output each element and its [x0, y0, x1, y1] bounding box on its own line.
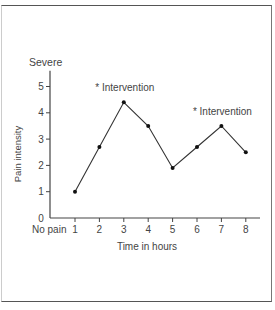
data-point	[195, 145, 199, 149]
axes	[50, 71, 260, 218]
data-point	[244, 150, 248, 154]
x-tick-label: 4	[145, 224, 151, 235]
y-tick-label: 4	[38, 107, 44, 118]
x-origin-label: No pain	[32, 224, 66, 235]
y-tick-label: 2	[38, 160, 44, 171]
intervention-annotation: * Intervention	[193, 106, 252, 117]
x-tick-label: 6	[194, 224, 200, 235]
y-axis-label: Pain intensity	[12, 126, 23, 183]
y-top-label: Severe	[29, 56, 62, 68]
y-tick-label: 5	[38, 81, 44, 92]
intervention-annotation: * Intervention	[95, 82, 154, 93]
data-point	[97, 145, 101, 149]
x-tick-label: 7	[219, 224, 225, 235]
x-tick-label: 5	[170, 224, 176, 235]
y-tick-label: 0	[38, 213, 44, 224]
x-tick-label: 3	[121, 224, 127, 235]
data-point	[171, 166, 175, 170]
x-tick-label: 8	[243, 224, 249, 235]
data-point	[146, 124, 150, 128]
ticks: 01234512345678	[38, 81, 249, 235]
line-chart: 01234512345678 * Intervention* Intervent…	[0, 0, 275, 310]
data-point	[219, 124, 223, 128]
y-tick-label: 3	[38, 134, 44, 145]
y-tick-label: 1	[38, 186, 44, 197]
x-axis-label: Time in hours	[117, 241, 177, 252]
data-point	[73, 190, 77, 194]
data-point	[122, 100, 126, 104]
x-tick-label: 1	[72, 224, 78, 235]
x-tick-label: 2	[97, 224, 103, 235]
